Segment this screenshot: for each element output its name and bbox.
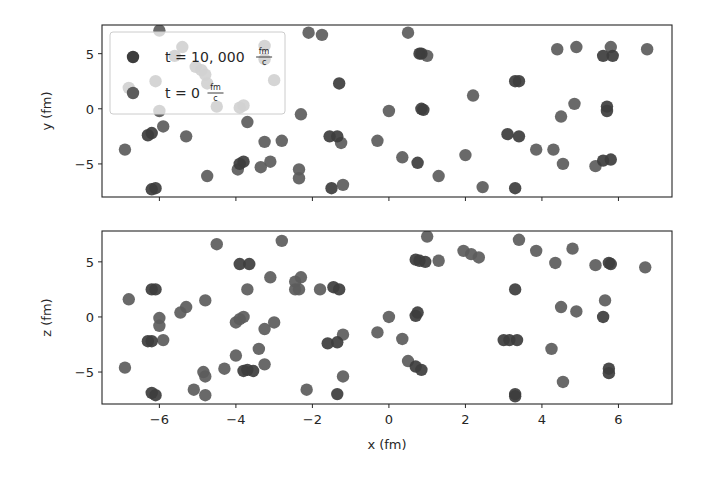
y-tick-label: −5: [75, 157, 94, 172]
bottom-axes-zx: −6−4−20246−505z (fm)x (fm): [39, 230, 672, 452]
data-point: [549, 257, 561, 269]
data-point: [402, 27, 414, 39]
data-point: [230, 349, 242, 361]
data-point: [473, 251, 485, 263]
data-point: [383, 311, 395, 323]
data-point: [641, 43, 653, 55]
legend-marker-icon: [127, 87, 139, 99]
data-point: [218, 363, 230, 375]
data-point: [293, 283, 305, 295]
legend-unit-numerator: fm: [210, 83, 221, 92]
data-point: [201, 170, 213, 182]
data-point: [396, 333, 408, 345]
data-point: [264, 156, 276, 168]
data-point: [513, 234, 525, 246]
y-tick-label: −5: [75, 365, 94, 380]
data-point: [199, 389, 211, 401]
data-point: [411, 306, 423, 318]
data-point: [295, 108, 307, 120]
data-point: [509, 283, 521, 295]
data-point: [605, 258, 617, 270]
data-point: [415, 364, 427, 376]
data-point: [509, 390, 521, 402]
data-point: [476, 181, 488, 193]
data-point: [568, 98, 580, 110]
data-point: [199, 294, 211, 306]
data-point: [276, 235, 288, 247]
data-point: [605, 153, 617, 165]
data-point: [180, 130, 192, 142]
data-point: [459, 149, 471, 161]
data-point: [557, 376, 569, 388]
data-point: [157, 120, 169, 132]
x-tick-label: −6: [150, 412, 169, 427]
data-point: [149, 389, 161, 401]
data-point: [371, 326, 383, 338]
data-point: [337, 179, 349, 191]
y-axis-label: z (fm): [39, 298, 54, 336]
data-point: [123, 293, 135, 305]
data-point: [188, 383, 200, 395]
figure: −505y (fm)t = 10, 000fmct = 0fmc −6−4−20…: [0, 0, 704, 483]
data-point: [419, 256, 431, 268]
data-point: [570, 41, 582, 53]
legend-unit-denominator: c: [213, 94, 217, 103]
data-point: [264, 271, 276, 283]
data-point: [237, 156, 249, 168]
data-point: [247, 365, 259, 377]
data-point: [566, 242, 578, 254]
x-tick-label: 4: [538, 412, 546, 427]
data-point: [513, 75, 525, 87]
data-point: [421, 230, 433, 242]
data-point: [302, 27, 314, 39]
y-tick-label: 0: [86, 102, 94, 117]
data-point: [146, 335, 158, 347]
data-point: [295, 271, 307, 283]
data-point: [300, 383, 312, 395]
data-point: [603, 367, 615, 379]
data-point: [545, 343, 557, 355]
data-point: [314, 283, 326, 295]
data-point: [530, 245, 542, 257]
data-point: [570, 305, 582, 317]
x-tick-label: −2: [303, 412, 322, 427]
data-point: [253, 343, 265, 355]
data-point: [157, 334, 169, 346]
data-point: [211, 238, 223, 250]
data-point: [258, 136, 270, 148]
data-point: [119, 361, 131, 373]
x-tick-label: 6: [614, 412, 622, 427]
legend-label: t = 0: [165, 85, 200, 101]
top-axes-yx: −505y (fm)t = 10, 000fmct = 0fmc: [39, 24, 672, 201]
data-point: [337, 370, 349, 382]
legend: t = 10, 000fmct = 0fmc: [110, 32, 285, 114]
data-point: [119, 143, 131, 155]
data-point: [241, 283, 253, 295]
data-point: [333, 283, 345, 295]
data-point: [547, 143, 559, 155]
y-axis-label: y (fm): [39, 91, 54, 130]
data-point: [555, 110, 567, 122]
data-point: [513, 130, 525, 142]
y-tick-label: 5: [86, 255, 94, 270]
data-point: [258, 358, 270, 370]
data-point: [243, 258, 255, 270]
data-point: [530, 143, 542, 155]
data-point: [415, 47, 427, 59]
data-point: [268, 316, 280, 328]
data-point: [599, 294, 611, 306]
data-point: [149, 182, 161, 194]
scatter-points: [119, 230, 652, 402]
data-point: [589, 259, 601, 271]
data-point: [396, 151, 408, 163]
data-point: [467, 89, 479, 101]
data-point: [597, 311, 609, 323]
data-point: [316, 29, 328, 41]
y-tick-label: 5: [86, 47, 94, 62]
data-point: [501, 128, 513, 140]
data-point: [417, 104, 429, 116]
data-point: [331, 130, 343, 142]
data-point: [371, 135, 383, 147]
data-point: [551, 43, 563, 55]
data-point: [276, 135, 288, 147]
